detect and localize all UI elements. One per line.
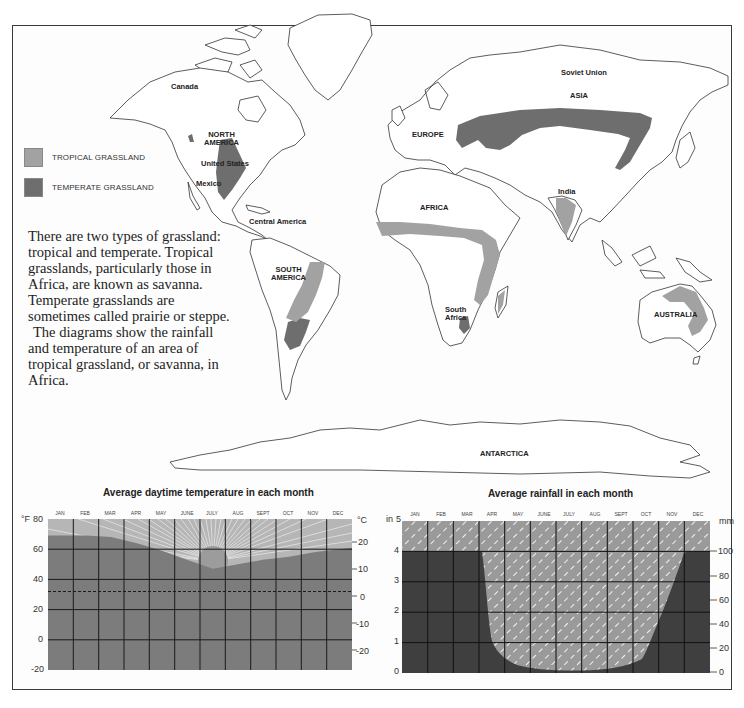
label-south-america-line2: AMERICA [271, 274, 306, 282]
greenland-outline [288, 14, 372, 100]
rain-month-label: NOV [660, 511, 684, 517]
rain-month-label: JUNE [532, 511, 556, 517]
temp-right-axis-ticks [352, 519, 358, 670]
temp-tick-left: -20 [31, 664, 44, 674]
temp-month-label: FEB [73, 510, 97, 516]
temp-month-label: APR [124, 510, 148, 516]
label-united-states: United States [201, 160, 249, 168]
caribbean-outline [246, 205, 270, 214]
temp-month-label: MAR [98, 510, 122, 516]
rain-month-label: AUG [583, 511, 607, 517]
tasmania-outline [693, 356, 700, 364]
label-antarctica: ANTARCTICA [480, 450, 529, 458]
temp-month-label: JUNE [175, 510, 199, 516]
rain-unit-right: mm [719, 516, 734, 526]
tropical-swatch [24, 148, 43, 167]
rain-month-label: JULY [557, 511, 581, 517]
label-north-america-line2: AMERICA [204, 139, 239, 147]
label-australia: AUSTRALIA [654, 311, 697, 319]
temp-month-label: SEPT [251, 510, 275, 516]
rain-month-label: OCT [634, 511, 658, 517]
rain-month-label: SEPT [609, 511, 633, 517]
label-india: India [558, 188, 576, 196]
temp-month-label: OCT [276, 510, 300, 516]
legend-item-tropical: TROPICAL GRASSLAND [24, 142, 154, 172]
temp-month-label: MAY [149, 510, 173, 516]
label-mexico: Mexico [196, 180, 221, 188]
rain-right-axis-ticks [710, 521, 718, 673]
label-europe: EUROPE [412, 131, 444, 139]
rain-tick-right: 20 [719, 643, 729, 653]
rain-month-label: FEB [429, 511, 453, 517]
rain-tick-left: 0 [394, 666, 399, 676]
temp-tick-left: 40 [33, 574, 43, 584]
temperature-chart [48, 519, 352, 670]
temp-month-label: JAN [48, 510, 72, 516]
description-text: There are two types of grassland: tropic… [28, 228, 233, 388]
rain-chart-title: Average rainfall in each month [488, 488, 633, 499]
japan-outline [676, 132, 695, 168]
temp-tick-right: 0 [360, 592, 365, 602]
rain-tick-right: 100 [718, 546, 733, 556]
temp-tick-right: 20 [358, 537, 368, 547]
temp-month-label: DEC [326, 510, 350, 516]
rain-tick-right: 60 [719, 595, 729, 605]
rain-month-label: JAN [403, 511, 427, 517]
rain-month-label: MAY [506, 511, 530, 517]
temp-month-label: JULY [200, 510, 224, 516]
temp-unit-right: °C [357, 515, 367, 525]
label-south-africa: South Africa [445, 306, 466, 322]
map-legend: TROPICAL GRASSLAND TEMPERATE GRASSLAND [24, 142, 154, 202]
rainfall-chart [402, 521, 710, 673]
label-canada: Canada [171, 83, 198, 91]
label-soviet-union: Soviet Union [561, 69, 607, 77]
temp-tick-left: 80 [33, 514, 43, 524]
rain-tick-right: 40 [719, 619, 729, 629]
rain-unit-left: in [386, 514, 393, 524]
rain-month-label: DEC [686, 511, 710, 517]
se-asia-islands-outline [602, 240, 712, 282]
rain-month-label: APR [480, 511, 504, 517]
description-paragraph-1: There are two types of grassland: tropic… [28, 228, 233, 324]
label-south-africa-line2: Africa [445, 314, 466, 322]
temperate-swatch [24, 178, 43, 197]
label-africa: AFRICA [420, 204, 448, 212]
rain-tick-right: 80 [719, 571, 729, 581]
label-central-america: Central America [249, 218, 306, 226]
legend-label-temperate: TEMPERATE GRASSLAND [52, 183, 154, 192]
label-south-america: SOUTH AMERICA [271, 266, 306, 282]
temp-month-label: NOV [301, 510, 325, 516]
rain-month-label: MAR [455, 511, 479, 517]
temp-month-label: AUG [226, 510, 250, 516]
rain-tick-left: 2 [394, 605, 399, 615]
rain-tick-left: 4 [394, 545, 399, 555]
temp-tick-left: 0 [38, 634, 43, 644]
temp-chart-title: Average daytime temperature in each mont… [103, 487, 314, 498]
rain-tick-right: 0 [719, 667, 724, 677]
rain-tick-left: 1 [394, 636, 399, 646]
label-north-america: NORTH AMERICA [204, 131, 239, 147]
antarctica-outline [170, 420, 710, 478]
temp-tick-left: 20 [33, 604, 43, 614]
temp-tick-left: 60 [33, 544, 43, 554]
temp-tick-right: 10 [358, 564, 368, 574]
description-paragraph-2: The diagrams show the rainfall and tempe… [28, 324, 233, 388]
label-asia: ASIA [570, 92, 588, 100]
legend-item-temperate: TEMPERATE GRASSLAND [24, 172, 154, 202]
rain-tick-left: 5 [396, 514, 401, 524]
rain-tick-left: 3 [394, 575, 399, 585]
temp-unit-left: °F [21, 514, 30, 524]
legend-label-tropical: TROPICAL GRASSLAND [52, 153, 145, 162]
